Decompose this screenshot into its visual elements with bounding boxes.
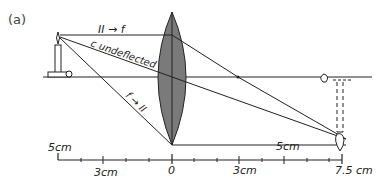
panel-label: (a) — [8, 12, 26, 27]
tick-label-zero: 0 — [168, 164, 175, 177]
lens-ray-diagram: (a) II → f c undeflected f → II — [0, 0, 387, 191]
tick-label-3cm-left: 3cm — [94, 166, 118, 179]
inverted-image-icon — [321, 74, 352, 151]
focal-point — [237, 76, 240, 79]
tick-label-3cm-right: 3cm — [233, 164, 257, 177]
ray-parallel-label: II → f — [98, 23, 127, 36]
ray-focal — [60, 38, 346, 145]
candle-object-icon — [48, 32, 72, 77]
diagram-svg: (a) II → f c undeflected f → II — [0, 0, 387, 191]
object-distance-label: 5cm — [48, 141, 72, 154]
tick-label-7-5cm: 7.5 cm — [335, 164, 373, 177]
ray-center-label: c undeflected — [89, 37, 158, 70]
image-distance-label: 5cm — [276, 140, 300, 153]
distance-ruler — [58, 153, 342, 164]
